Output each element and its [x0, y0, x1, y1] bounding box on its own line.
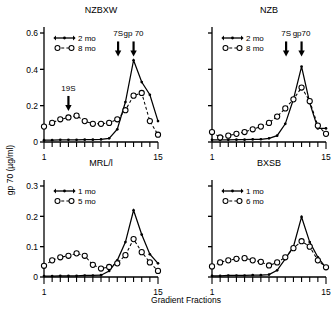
- data-point: [107, 264, 112, 269]
- data-point: [300, 65, 303, 68]
- y-tick-label: 0.2: [26, 212, 38, 222]
- data-point: [260, 138, 263, 141]
- data-point: [149, 93, 152, 96]
- data-point: [234, 256, 239, 261]
- x-axis-label: Gradient Fractions: [151, 295, 221, 305]
- data-point: [74, 113, 79, 118]
- data-point: [218, 135, 223, 140]
- data-point: [242, 256, 247, 261]
- data-point: [82, 253, 87, 258]
- data-point: [276, 134, 279, 137]
- legend-label: 5 mo: [78, 197, 96, 206]
- data-point: [227, 138, 230, 141]
- marker-label: gp 70: [124, 29, 145, 38]
- data-point: [325, 127, 328, 130]
- data-point: [139, 250, 144, 255]
- chart-panel-nzbxw: NZBXW00.20.40.611519S7Sgp 702 mo8 mo: [26, 5, 163, 162]
- data-point: [275, 114, 280, 119]
- data-point: [43, 275, 46, 278]
- data-point: [291, 246, 296, 251]
- data-point: [266, 263, 271, 268]
- data-point: [115, 117, 120, 122]
- data-point: [75, 274, 78, 277]
- data-point: [107, 120, 112, 125]
- data-point: [83, 138, 86, 141]
- panel-title: NZB: [260, 5, 278, 15]
- data-point: [211, 274, 214, 277]
- data-point: [74, 251, 79, 256]
- data-point: [140, 233, 143, 236]
- y-axis-label: gp 70 (µg/ml): [5, 145, 15, 195]
- panel-title: BXSB: [257, 158, 281, 168]
- data-point: [41, 263, 46, 268]
- data-point: [116, 128, 119, 131]
- x-tick-label: 15: [153, 152, 163, 162]
- y-tick-label: 0: [33, 272, 38, 282]
- data-point: [83, 274, 86, 277]
- data-point: [58, 255, 63, 260]
- marker-label: gp70: [293, 29, 311, 38]
- data-point: [260, 274, 263, 277]
- x-tick-label: 1: [210, 152, 215, 162]
- data-point: [140, 81, 143, 84]
- data-point: [50, 120, 55, 125]
- chart-panel-mrll: MRL/l00.10.20.31151 mo5 mo: [26, 158, 163, 297]
- data-point: [226, 258, 231, 263]
- chart-panel-nzb: NZB1157Sgp702 mo8 mo: [208, 5, 331, 162]
- data-point: [149, 253, 152, 256]
- data-point: [75, 138, 78, 141]
- marker-label: 7S: [113, 29, 123, 38]
- data-point: [51, 139, 54, 142]
- data-point: [211, 138, 214, 141]
- data-point: [67, 138, 70, 141]
- data-point: [59, 138, 62, 141]
- data-point: [283, 255, 288, 260]
- data-point: [226, 133, 231, 138]
- data-point: [258, 259, 263, 264]
- legend-label: 8 mo: [78, 44, 96, 53]
- data-point: [266, 120, 271, 125]
- data-point: [131, 236, 136, 241]
- y-tick-label: 0.6: [26, 28, 38, 38]
- data-point: [59, 274, 62, 277]
- data-point: [155, 132, 160, 137]
- data-point: [157, 262, 160, 265]
- data-point: [147, 119, 152, 124]
- data-point: [51, 275, 54, 278]
- data-point: [243, 274, 246, 277]
- data-point: [242, 129, 247, 134]
- data-point: [123, 253, 128, 258]
- data-point: [268, 137, 271, 140]
- data-point: [108, 137, 111, 140]
- data-point: [284, 122, 287, 125]
- data-point: [147, 260, 152, 265]
- x-tick-label: 15: [321, 152, 331, 162]
- legend-label: 1 mo: [78, 187, 96, 196]
- data-point: [82, 119, 87, 124]
- y-tick-label: 0.2: [26, 101, 38, 111]
- data-point: [307, 99, 312, 104]
- data-point: [308, 241, 311, 244]
- data-point: [92, 274, 95, 277]
- y-tick-label: 0.4: [26, 65, 38, 75]
- data-point: [98, 121, 103, 126]
- data-point: [90, 262, 95, 267]
- data-point: [315, 123, 320, 128]
- data-point: [124, 241, 127, 244]
- data-point: [299, 239, 304, 244]
- data-point: [258, 124, 263, 129]
- panel-title: NZBXW: [85, 5, 118, 15]
- chart-panel-bxsb: BXSB1151 mo6 mo: [208, 158, 331, 297]
- data-point: [299, 85, 304, 90]
- data-point: [100, 274, 103, 277]
- data-point: [124, 101, 127, 104]
- data-point: [123, 108, 128, 113]
- data-point: [276, 269, 279, 272]
- legend-label: 2 mo: [78, 34, 96, 43]
- data-point: [209, 264, 214, 269]
- data-point: [218, 260, 223, 265]
- data-point: [243, 138, 246, 141]
- data-point: [307, 244, 312, 249]
- data-point: [235, 274, 238, 277]
- legend-label: 8 mo: [246, 44, 264, 53]
